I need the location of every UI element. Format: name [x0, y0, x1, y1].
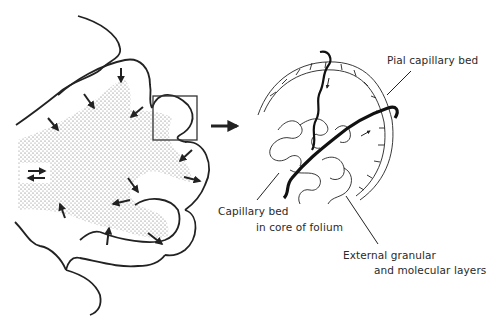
label-molecular-layers: and molecular layers — [374, 264, 486, 276]
unstippled-gap — [20, 163, 50, 183]
label-pial-capillary-bed: Pial capillary bed — [387, 54, 478, 66]
label-core-of-folium: in core of folium — [256, 221, 343, 233]
label-capillary-bed: Capillary bed — [218, 205, 289, 217]
diagram-figure: Pial capillary bed Capillary bed in core… — [0, 0, 487, 321]
enlarged-folium — [258, 62, 393, 204]
label-external-granular: External granular — [343, 249, 436, 261]
